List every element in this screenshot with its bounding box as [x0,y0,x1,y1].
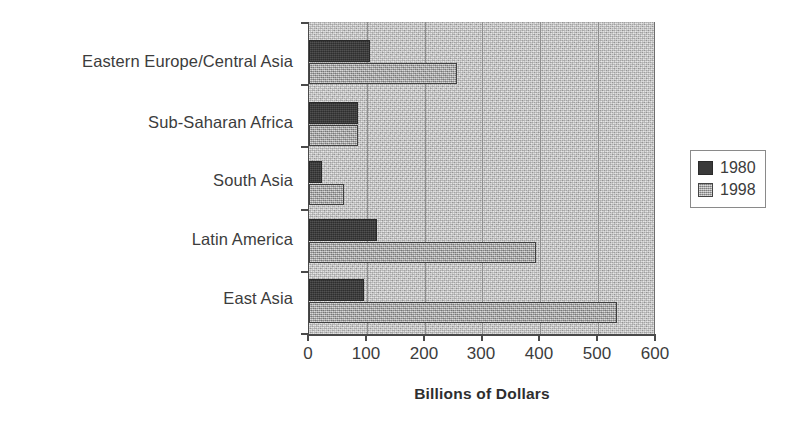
bar-sub-saharan-africa-1980 [309,102,358,124]
gridline-400 [540,22,541,334]
xtick-mark-500 [596,334,598,341]
bar-south-asia-1980 [309,161,322,183]
plot-right-border [654,22,655,334]
gridline-500 [598,22,599,334]
xtick-mark-200 [423,334,425,341]
category-label-eastern-europe-central-asia: Eastern Europe/Central Asia [0,53,293,70]
xtick-mark-0 [307,334,309,341]
xtick-mark-300 [481,334,483,341]
category-label-latin-america: Latin America [0,231,293,248]
category-label-sub-saharan-africa: Sub-Saharan Africa [0,114,293,131]
bar-eastern-europe-central-asia-1980 [309,40,370,62]
x-axis-title: Billions of Dollars [308,385,656,403]
category-label-east-asia: East Asia [0,290,293,307]
legend-item-1980: 1980 [698,157,756,179]
bar-sub-saharan-africa-1998 [309,125,358,146]
chart-legend: 1980 1998 [690,150,766,208]
bar-south-asia-1998 [309,184,344,205]
bar-latin-america-1998 [309,242,536,263]
bar-east-asia-1998 [309,302,617,323]
ytick-4 [301,271,308,273]
legend-label-1998: 1998 [720,182,756,198]
xtick-mark-400 [538,334,540,341]
xtick-label-600: 600 [620,345,690,362]
legend-swatch-1980-icon [698,161,713,175]
plot-area [308,22,655,334]
xtick-mark-100 [365,334,367,341]
xtick-mark-600 [654,334,656,341]
gridline-300 [482,22,483,334]
bar-latin-america-1980 [309,219,377,241]
ytick-0 [301,22,308,24]
ytick-3 [301,209,308,211]
legend-label-1980: 1980 [720,160,756,176]
ytick-1 [301,84,308,86]
legend-swatch-1998-icon [698,183,713,197]
bar-east-asia-1980 [309,279,364,301]
category-label-south-asia: South Asia [0,172,293,189]
ytick-2 [301,146,308,148]
bar-eastern-europe-central-asia-1998 [309,63,457,84]
bar-chart-figure: Eastern Europe/Central Asia Sub-Saharan … [0,0,799,433]
legend-item-1998: 1998 [698,179,756,201]
